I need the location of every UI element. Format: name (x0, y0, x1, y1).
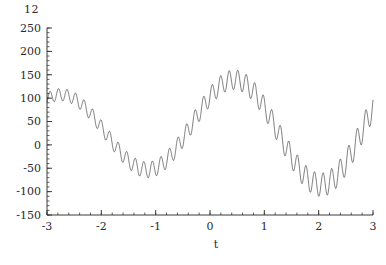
data-curve (47, 70, 373, 196)
x-tick-label: 2 (315, 220, 322, 233)
axes-group (47, 28, 373, 215)
x-tick-label: 0 (207, 220, 214, 233)
y-tick-label: 0 (34, 139, 41, 152)
y-tick-label: -150 (16, 209, 41, 222)
tick-labels-group: -150-100-50050100150200250-3-2-10123 (16, 22, 376, 233)
x-tick-label: -3 (42, 220, 53, 233)
x-tick-label: -1 (150, 220, 161, 233)
chart-plot: -150-100-50050100150200250-3-2-10123 t (0, 0, 386, 265)
y-tick-label: 250 (20, 22, 41, 35)
x-tick-label: -2 (96, 220, 107, 233)
y-tick-label: 150 (20, 69, 41, 82)
y-tick-label: -50 (23, 162, 41, 175)
data-curve-group (47, 70, 373, 196)
y-tick-label: 50 (27, 115, 41, 128)
x-axis-title: t (214, 238, 219, 251)
y-tick-label: 100 (20, 92, 41, 105)
x-tick-label: 1 (261, 220, 268, 233)
y-tick-label: 200 (20, 45, 41, 58)
x-tick-label: 3 (370, 220, 377, 233)
y-tick-label: -100 (16, 185, 41, 198)
figure-container: 12 -150-100-50050100150200250-3-2-10123 … (0, 0, 386, 265)
